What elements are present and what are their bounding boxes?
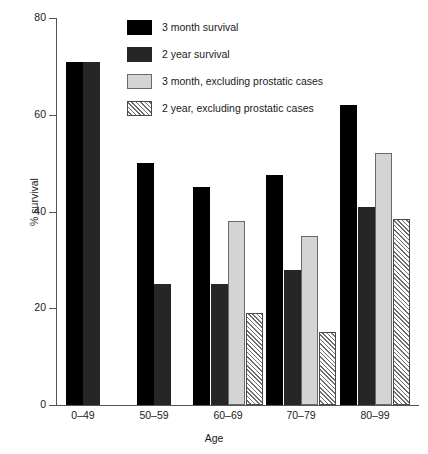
bar — [246, 313, 263, 405]
legend-swatch-icon — [127, 47, 152, 62]
x-axis-tick-label: 70–79 — [271, 410, 331, 422]
bar — [154, 284, 171, 405]
legend-item[interactable]: 3 month, excluding prostatic cases — [127, 70, 407, 92]
legend-item[interactable]: 2 year survival — [127, 43, 407, 65]
bar — [340, 105, 357, 405]
y-axis-tick-label: 0 — [4, 399, 46, 410]
bar — [358, 207, 375, 405]
legend-swatch-icon — [127, 74, 152, 89]
y-axis-title: % survival — [28, 162, 40, 242]
bar — [375, 153, 392, 405]
x-axis-tick-label: 60–69 — [198, 410, 258, 422]
bar — [137, 163, 154, 405]
y-axis-tick-label: 20 — [4, 302, 46, 313]
legend-item-label: 2 year, excluding prostatic cases — [162, 102, 314, 114]
y-axis-tick — [49, 308, 56, 309]
bar-chart: 020406080 % survival Age 0–4950–5960–697… — [0, 0, 428, 454]
y-axis-tick — [49, 18, 56, 19]
bar — [284, 270, 301, 405]
bar — [319, 332, 336, 405]
y-axis-tick — [49, 212, 56, 213]
x-axis-tick-label: 0–49 — [53, 410, 113, 422]
x-axis-tick-label: 50–59 — [124, 410, 184, 422]
bar — [301, 236, 318, 405]
legend-item-label: 3 month survival — [162, 21, 238, 33]
x-axis-title: Age — [0, 432, 428, 444]
bar — [83, 62, 100, 405]
chart-legend: 3 month survival2 year survival3 month, … — [127, 16, 407, 124]
bar — [228, 221, 245, 405]
legend-item[interactable]: 2 year, excluding prostatic cases — [127, 97, 407, 119]
x-axis-tick-label: 80–99 — [345, 410, 405, 422]
legend-item[interactable]: 3 month survival — [127, 16, 407, 38]
legend-item-label: 3 month, excluding prostatic cases — [162, 75, 323, 87]
bar — [211, 284, 228, 405]
y-axis-tick-label: 80 — [4, 12, 46, 23]
bar — [66, 62, 83, 405]
bar — [266, 175, 283, 405]
legend-swatch-icon — [127, 101, 152, 116]
y-axis-tick — [49, 405, 56, 406]
y-axis-tick — [49, 115, 56, 116]
legend-item-label: 2 year survival — [162, 48, 230, 60]
legend-swatch-icon — [127, 20, 152, 35]
bar — [393, 219, 410, 405]
y-axis-tick-label: 60 — [4, 109, 46, 120]
bar — [193, 187, 210, 405]
x-axis-line — [56, 405, 419, 406]
